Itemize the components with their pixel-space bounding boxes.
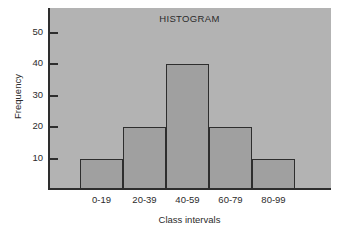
histogram-figure: HISTOGRAM 1020304050 0-1920-3940-5960-79…	[0, 0, 349, 234]
histogram-bar	[252, 159, 295, 190]
x-axis-title: Class intervals	[48, 214, 331, 225]
histogram-bar	[123, 127, 166, 190]
bars-layer	[48, 8, 331, 190]
histogram-bar	[166, 64, 209, 190]
y-axis-tick	[50, 32, 58, 34]
x-axis-line	[48, 188, 331, 190]
y-axis-tick-label: 20	[19, 121, 43, 131]
histogram-bar	[80, 159, 123, 190]
histogram-bar	[209, 127, 252, 190]
y-axis-tick	[50, 126, 58, 128]
x-axis-tick-label: 80-99	[246, 194, 302, 205]
y-axis-tick	[50, 95, 58, 97]
y-axis-tick-label: 30	[19, 90, 43, 100]
y-axis-tick-label: 10	[19, 153, 43, 163]
y-axis-line	[48, 8, 50, 190]
y-axis-tick-label: 40	[19, 58, 43, 68]
y-axis-tick	[50, 158, 58, 160]
y-axis-tick	[50, 63, 58, 65]
y-axis-title: Frequency	[12, 42, 23, 152]
y-axis-tick-label: 50	[19, 27, 43, 37]
